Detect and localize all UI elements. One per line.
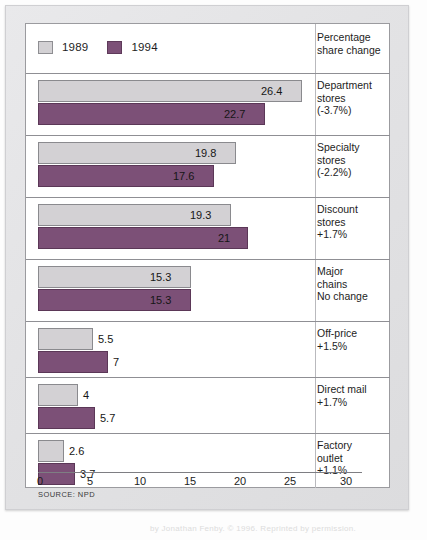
bar-1994 bbox=[38, 227, 248, 249]
x-axis-tick-5: 5 bbox=[87, 475, 93, 487]
x-axis-tick-25: 25 bbox=[284, 475, 296, 487]
bar-value-1989: 26.4 bbox=[261, 80, 282, 102]
row-plot-area: 26.4 22.7 bbox=[26, 74, 315, 135]
row-label-line1: Factory bbox=[317, 439, 393, 452]
label-column-header-line1: Percentage bbox=[317, 31, 391, 44]
bar-value-1994: 5.7 bbox=[100, 407, 115, 429]
row-label-change: (-3.7%) bbox=[317, 104, 393, 117]
x-axis-line bbox=[38, 472, 362, 473]
x-axis-tick-30: 30 bbox=[340, 475, 352, 487]
row-plot-area: 19.3 21 bbox=[26, 198, 315, 259]
row-label-change: (-2.2%) bbox=[317, 166, 393, 179]
legend-swatch-1994-icon bbox=[107, 41, 122, 54]
chart-row-off-price: 5.5 7 Off-price +1.5% bbox=[26, 321, 390, 377]
bar-value-1989: 4 bbox=[83, 384, 89, 406]
x-axis-tick-15: 15 bbox=[184, 475, 196, 487]
legend-label-1989: 1989 bbox=[62, 41, 88, 53]
x-axis-tick-0: 0 bbox=[37, 475, 43, 487]
row-label-line2: stores bbox=[317, 92, 393, 105]
row-label-line2: stores bbox=[317, 216, 393, 229]
bar-value-1989: 5.5 bbox=[98, 328, 113, 350]
row-plot-area: 5.5 7 bbox=[26, 322, 315, 377]
scanned-page: 1989 1994 Percentage share change 26.4 2… bbox=[0, 0, 427, 540]
row-label-change: +1.5% bbox=[317, 340, 393, 353]
bar-value-1989: 2.6 bbox=[69, 440, 84, 462]
row-label-change: No change bbox=[317, 290, 393, 303]
chart-row-major-chains: 15.3 15.3 Major chains No change bbox=[26, 259, 390, 321]
label-column-header-line2: share change bbox=[317, 44, 391, 57]
row-label-department-stores: Department stores (-3.7%) bbox=[317, 79, 393, 117]
row-label-specialty-stores: Specialty stores (-2.2%) bbox=[317, 141, 393, 179]
row-label-line1: Direct mail bbox=[317, 383, 393, 396]
chart-row-specialty-stores: 19.8 17.6 Specialty stores (-2.2%) bbox=[26, 135, 390, 197]
bar-1989 bbox=[38, 440, 64, 462]
bar-1989 bbox=[38, 384, 78, 406]
legend-swatch-1989-icon bbox=[38, 41, 53, 54]
page-caption-artifact: by Jonathan Fenby. © 1996. Reprinted by … bbox=[150, 524, 356, 533]
row-label-line2: outlet bbox=[317, 452, 393, 465]
chart-row-department-stores: 26.4 22.7 Department stores (-3.7%) bbox=[26, 73, 390, 135]
bar-1989 bbox=[38, 328, 93, 350]
row-label-discount-stores: Discount stores +1.7% bbox=[317, 203, 393, 241]
chart-plate: 1989 1994 Percentage share change 26.4 2… bbox=[25, 23, 390, 488]
figure-mat-border: 1989 1994 Percentage share change 26.4 2… bbox=[5, 5, 409, 510]
bar-1994 bbox=[38, 351, 108, 373]
bar-value-1994: 17.6 bbox=[173, 165, 194, 187]
bar-value-1994: 7 bbox=[113, 351, 119, 373]
bar-value-1994: 21 bbox=[218, 227, 230, 249]
row-label-line1: Off-price bbox=[317, 327, 393, 340]
legend-label-1994: 1994 bbox=[131, 41, 157, 53]
row-label-line1: Specialty bbox=[317, 141, 393, 154]
row-label-line2: stores bbox=[317, 154, 393, 167]
chart-legend: 1989 1994 bbox=[38, 38, 168, 56]
row-label-change: +1.7% bbox=[317, 396, 393, 409]
x-axis-tick-10: 10 bbox=[134, 475, 146, 487]
chart-row-discount-stores: 19.3 21 Discount stores +1.7% bbox=[26, 197, 390, 259]
row-label-major-chains: Major chains No change bbox=[317, 265, 393, 303]
bar-value-1994: 15.3 bbox=[150, 289, 171, 311]
label-column-header: Percentage share change bbox=[317, 31, 391, 56]
row-label-change: +1.7% bbox=[317, 228, 393, 241]
x-axis: 0 5 10 15 20 25 30 bbox=[26, 472, 390, 488]
row-plot-area: 15.3 15.3 bbox=[26, 260, 315, 321]
row-label-line1: Major bbox=[317, 265, 393, 278]
source-note: SOURCE: NPD bbox=[38, 490, 95, 499]
row-label-line1: Discount bbox=[317, 203, 393, 216]
row-label-direct-mail: Direct mail +1.7% bbox=[317, 383, 393, 408]
row-label-off-price: Off-price +1.5% bbox=[317, 327, 393, 352]
bar-value-1989: 19.8 bbox=[195, 142, 216, 164]
row-label-line1: Department bbox=[317, 79, 393, 92]
row-label-line2: chains bbox=[317, 278, 393, 291]
row-label-factory-outlet: Factory outlet +1.1% bbox=[317, 439, 393, 477]
bar-1994 bbox=[38, 407, 95, 429]
row-plot-area: 19.8 17.6 bbox=[26, 136, 315, 197]
x-axis-tick-20: 20 bbox=[234, 475, 246, 487]
bar-value-1989: 19.3 bbox=[190, 204, 211, 226]
bar-value-1989: 15.3 bbox=[150, 266, 171, 288]
chart-row-direct-mail: 4 5.7 Direct mail +1.7% bbox=[26, 377, 390, 433]
bar-value-1994: 22.7 bbox=[224, 103, 245, 125]
row-plot-area: 4 5.7 bbox=[26, 378, 315, 433]
